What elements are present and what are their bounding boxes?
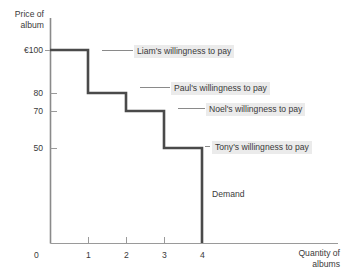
x-axis-title-line1: Quantity of	[248, 248, 340, 259]
x-axis-title: Quantity of albums	[248, 248, 340, 269]
chart-plot-area	[0, 0, 344, 277]
y-tick-label-70: 70	[2, 106, 43, 116]
y-tick-label-0-origin: 0	[34, 250, 39, 260]
y-tick-label-50: 50	[2, 143, 43, 153]
x-tick-marks	[89, 237, 203, 244]
annotation-liam: Liam's willingness to pay	[134, 45, 234, 58]
annotation-noel: Noel's willingness to pay	[206, 103, 305, 116]
demand-curve-chart: Price of album €100 80 70 50 0 1 2 3 4 Q…	[0, 0, 344, 277]
x-tick-label-1: 1	[86, 250, 91, 260]
annotation-demand: Demand	[212, 189, 244, 200]
x-axis-title-line2: albums	[248, 259, 340, 270]
demand-step-curve	[50, 50, 202, 243]
annotation-paul: Paul's willingness to pay	[171, 82, 270, 95]
y-axis-title: Price of album	[0, 9, 44, 30]
y-axis-title-line1: Price of	[0, 9, 44, 20]
x-tick-label-3: 3	[162, 250, 167, 260]
annotation-tony: Tony's willingness to pay	[212, 141, 312, 154]
x-tick-label-2: 2	[124, 250, 129, 260]
x-tick-label-4: 4	[200, 250, 205, 260]
y-tick-label-100: €100	[2, 45, 43, 55]
y-axis-title-line2: album	[0, 20, 44, 31]
y-tick-label-80: 80	[2, 88, 43, 98]
